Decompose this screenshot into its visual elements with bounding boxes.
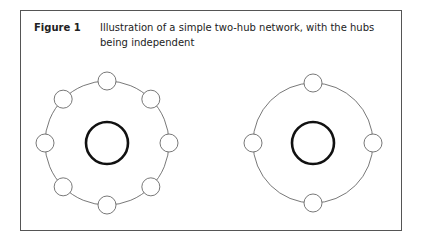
spoke-node (160, 134, 178, 152)
spoke-node (36, 134, 54, 152)
spoke-node (98, 196, 116, 214)
ring (253, 83, 373, 203)
spoke-node (304, 194, 322, 212)
spoke-node (54, 178, 72, 196)
network-diagram (0, 0, 424, 241)
spoke-node (98, 72, 116, 90)
spoke-node (244, 134, 262, 152)
spoke-node (142, 90, 160, 108)
hub-node (292, 122, 334, 164)
spoke-node (54, 90, 72, 108)
hub-node (86, 122, 128, 164)
spoke-node (304, 74, 322, 92)
spoke-node (142, 178, 160, 196)
spoke-node (364, 134, 382, 152)
